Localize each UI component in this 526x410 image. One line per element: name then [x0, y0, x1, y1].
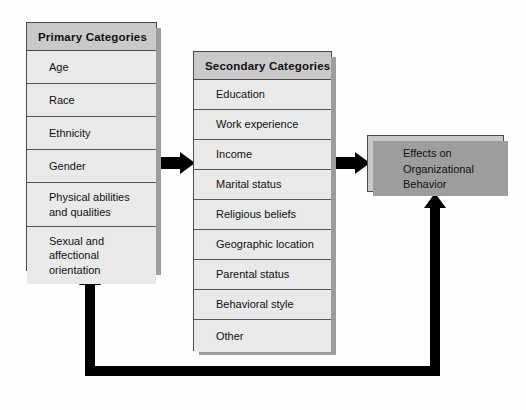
connector-feedback-right-vertical: [430, 200, 440, 376]
secondary-category-row: Education: [194, 80, 331, 110]
secondary-category-label: Parental status: [216, 267, 289, 281]
primary-category-row: Gender: [27, 150, 156, 183]
primary-category-label: Race: [49, 93, 75, 107]
secondary-category-label: Marital status: [216, 177, 281, 191]
primary-category-label: Age: [49, 60, 69, 74]
secondary-category-label: Behavioral style: [216, 297, 294, 311]
diagram-canvas: Primary Categories Age Race Ethnicity Ge…: [0, 0, 526, 410]
primary-categories-header: Primary Categories: [27, 23, 156, 51]
connector-feedback-left-vertical: [85, 283, 95, 371]
connector-feedback-bottom-horizontal: [85, 366, 440, 376]
secondary-category-label: Education: [216, 87, 265, 101]
effects-label: Effects on Organizational Behavior: [403, 147, 474, 190]
secondary-category-row: Other: [194, 320, 331, 352]
secondary-category-row: Parental status: [194, 260, 331, 290]
primary-category-row: Physical abilities and qualities: [27, 183, 156, 227]
secondary-category-row: Income: [194, 140, 331, 170]
secondary-category-row: Marital status: [194, 170, 331, 200]
primary-category-row: Race: [27, 84, 156, 117]
effects-on-organizational-behavior-box: Effects on Organizational Behavior: [367, 135, 504, 192]
secondary-category-label: Income: [216, 147, 252, 161]
secondary-category-label: Geographic location: [216, 237, 314, 251]
primary-category-row: Age: [27, 51, 156, 84]
secondary-category-row: Religious beliefs: [194, 200, 331, 230]
primary-category-label: Ethnicity: [49, 126, 91, 140]
secondary-category-label: Religious beliefs: [216, 207, 296, 221]
primary-categories-box: Primary Categories Age Race Ethnicity Ge…: [26, 22, 157, 271]
secondary-category-row: Behavioral style: [194, 290, 331, 320]
primary-category-label: Sexual and affectional orientation: [49, 234, 104, 276]
secondary-categories-box: Secondary Categories Education Work expe…: [193, 51, 332, 351]
primary-category-row: Ethnicity: [27, 117, 156, 150]
secondary-category-label: Work experience: [216, 117, 298, 131]
secondary-category-row: Work experience: [194, 110, 331, 140]
primary-category-label: Physical abilities and qualities: [49, 190, 130, 218]
secondary-categories-header: Secondary Categories: [194, 52, 331, 80]
secondary-category-label: Other: [216, 329, 244, 343]
primary-category-row: Sexual and affectional orientation: [27, 227, 156, 284]
secondary-category-row: Geographic location: [194, 230, 331, 260]
primary-category-label: Gender: [49, 159, 86, 173]
